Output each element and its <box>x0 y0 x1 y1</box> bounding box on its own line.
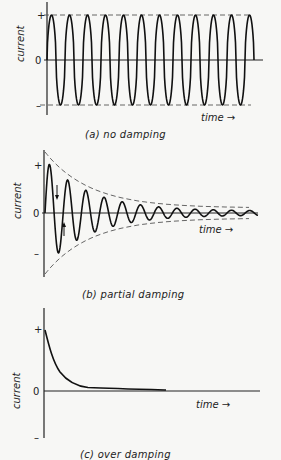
caption-c: (c) over damping <box>80 449 171 460</box>
y-axis-label: current <box>15 24 26 62</box>
panel-b: + 0 – current time → (b) partial damping <box>12 150 258 300</box>
x-axis-label: time → <box>201 112 235 123</box>
y-axis-label: current <box>11 371 22 409</box>
damped-oscillation-curve <box>45 165 258 254</box>
minus-tick: – <box>36 100 41 111</box>
zero-tick: 0 <box>33 208 39 219</box>
zero-tick: 0 <box>33 386 39 397</box>
x-axis-label: time → <box>196 399 230 410</box>
minus-tick: – <box>34 248 39 259</box>
panel-a: + 0 – current time → (a) no damping <box>15 2 263 140</box>
upper-envelope <box>45 152 249 207</box>
down-arrow-icon <box>55 185 59 200</box>
plus-tick: + <box>34 160 42 171</box>
panel-c: + 0 – current time → (c) over damping <box>11 308 260 460</box>
x-axis-label: time → <box>199 224 233 235</box>
damping-figure: + 0 – current time → (a) no damping + 0 … <box>0 0 281 460</box>
overdamped-decay-curve <box>45 330 166 390</box>
zero-tick: 0 <box>35 55 41 66</box>
caption-b: (b) partial damping <box>82 289 184 300</box>
plus-tick: + <box>34 324 42 335</box>
plus-tick: + <box>37 10 45 21</box>
y-axis-label: current <box>12 181 23 219</box>
caption-a: (a) no damping <box>85 129 166 140</box>
minus-tick: – <box>34 432 39 443</box>
